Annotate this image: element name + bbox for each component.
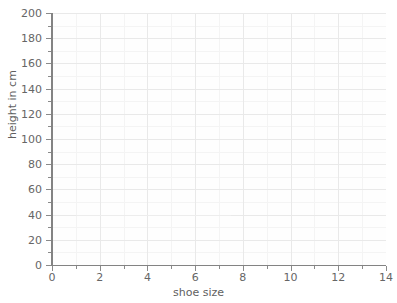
gridline-y-major	[52, 139, 386, 140]
chart-figure: 02468101214020406080100120140160180200 s…	[0, 0, 397, 303]
y-tick-minor	[48, 101, 51, 102]
gridline-y-minor	[52, 126, 386, 127]
gridline-y-major	[52, 13, 386, 14]
y-tick-minor	[48, 177, 51, 178]
x-tick-minor	[171, 266, 172, 269]
y-tick-major	[46, 38, 51, 39]
y-tick-label: 80	[28, 158, 42, 171]
gridline-y-minor	[52, 227, 386, 228]
x-tick-label: 6	[192, 271, 199, 284]
x-tick-minor	[314, 266, 315, 269]
x-tick-label: 14	[379, 271, 393, 284]
y-tick-major	[46, 265, 51, 266]
y-tick-label: 40	[28, 208, 42, 221]
x-tick-label: 8	[239, 271, 246, 284]
y-tick-minor	[48, 152, 51, 153]
x-tick-minor	[124, 266, 125, 269]
y-tick-minor	[48, 51, 51, 52]
y-tick-major	[46, 63, 51, 64]
y-tick-label: 20	[28, 233, 42, 246]
gridline-y-major	[52, 240, 386, 241]
gridline-y-major	[52, 189, 386, 190]
y-tick-major	[46, 13, 51, 14]
x-tick-minor	[76, 266, 77, 269]
gridline-y-major	[52, 38, 386, 39]
y-tick-minor	[48, 252, 51, 253]
y-tick-minor	[48, 26, 51, 27]
gridline-y-minor	[52, 252, 386, 253]
y-tick-major	[46, 215, 51, 216]
gridline-y-major	[52, 63, 386, 64]
x-tick-label: 12	[331, 271, 345, 284]
y-tick-minor	[48, 126, 51, 127]
y-tick-minor	[48, 76, 51, 77]
gridline-y-minor	[52, 101, 386, 102]
y-tick-major	[46, 164, 51, 165]
artifact-line-faint-baseline-artifact	[76, 215, 231, 216]
y-tick-major	[46, 139, 51, 140]
y-axis-spine	[51, 13, 53, 266]
gridline-y-minor	[52, 76, 386, 77]
x-axis-title: shoe size	[0, 286, 397, 299]
y-tick-major	[46, 189, 51, 190]
gridline-y-major	[52, 114, 386, 115]
y-tick-major	[46, 114, 51, 115]
x-tick-minor	[219, 266, 220, 269]
gridline-y-minor	[52, 152, 386, 153]
y-axis-title: height in cm	[6, 70, 19, 139]
y-tick-minor	[48, 227, 51, 228]
gridline-y-minor	[52, 51, 386, 52]
y-axis-title-wrapper: height in cm	[10, 0, 26, 303]
x-tick-minor	[267, 266, 268, 269]
x-tick-label: 10	[284, 271, 298, 284]
x-tick-minor	[362, 266, 363, 269]
y-tick-major	[46, 89, 51, 90]
gridline-y-major	[52, 89, 386, 90]
x-tick-label: 2	[96, 271, 103, 284]
gridline-y-minor	[52, 26, 386, 27]
gridline-y-major	[52, 164, 386, 165]
x-tick-label: 4	[144, 271, 151, 284]
y-tick-label: 60	[28, 183, 42, 196]
x-tick-label: 0	[49, 271, 56, 284]
y-tick-label: 0	[35, 259, 42, 272]
y-tick-minor	[48, 202, 51, 203]
gridline-y-minor	[52, 202, 386, 203]
gridline-y-minor	[52, 177, 386, 178]
y-tick-major	[46, 240, 51, 241]
plot-area	[52, 13, 386, 265]
